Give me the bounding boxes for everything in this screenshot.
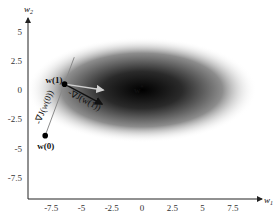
- y-tick-label: -7.5: [8, 173, 23, 183]
- x-tick-label: -7.5: [44, 203, 59, 213]
- x-tick-label: 0: [140, 203, 145, 213]
- point-label-w1: w(1): [46, 75, 63, 85]
- point-w1: [62, 81, 68, 87]
- y-tick-label: -5: [15, 144, 23, 154]
- point-label-w0: w(0): [37, 141, 54, 151]
- x-tick-label: 7.5: [227, 203, 239, 213]
- gradient-descent-diagram: -7.5-5-2.502.557.552.50-2.5-5-7.5w1w2w(0…: [0, 0, 278, 214]
- point-w0: [42, 133, 48, 139]
- y-tick-label: 2.5: [11, 56, 23, 66]
- x-tick-label: 2.5: [167, 203, 179, 213]
- y-axis-label: w2: [24, 4, 33, 15]
- y-tick-label: 5: [18, 27, 23, 37]
- cost-contour-ellipse: [27, 37, 257, 142]
- x-axis-label: w1: [264, 195, 273, 206]
- x-tick-label: -5: [78, 203, 86, 213]
- x-tick-label: 5: [200, 203, 205, 213]
- y-tick-label: -2.5: [8, 114, 23, 124]
- x-tick-label: -2.5: [105, 203, 120, 213]
- y-tick-label: 0: [18, 85, 23, 95]
